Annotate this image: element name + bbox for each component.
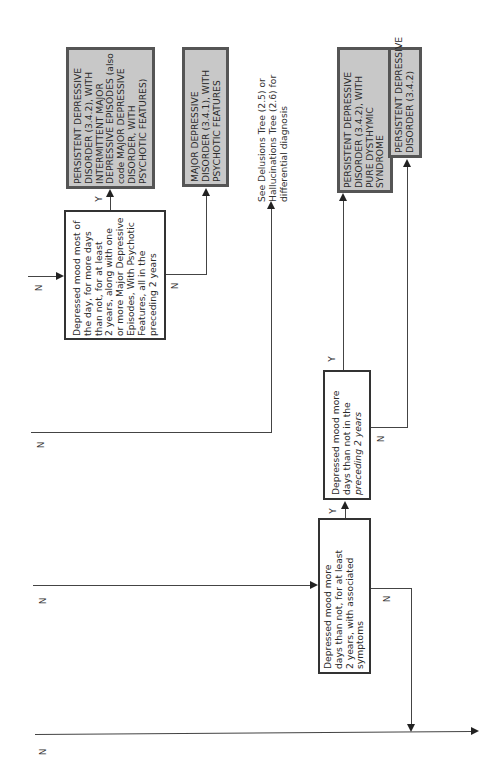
arrow-up-icon xyxy=(341,501,349,509)
arrow-up-icon xyxy=(106,189,114,197)
text-line: PERSISTENT DEPRESSIVE xyxy=(73,52,84,184)
text-line: DISORDER (3.4.1), WITH xyxy=(200,52,211,182)
connector-to-note-h xyxy=(31,432,271,433)
connector-d2-no-h xyxy=(371,427,408,428)
connector-d3-no-h xyxy=(371,588,411,589)
text-line: PSYCHOTIC FEATURES xyxy=(211,52,222,182)
decision-text: Depressed mood more days than not in the… xyxy=(331,375,363,495)
terminal-text: PERSISTENT DEPRESSIVE DISORDER (3.4.2), … xyxy=(73,52,149,184)
terminal-mdd-psychotic: MAJOR DEPRESSIVE DISORDER (3.4.1), WITH … xyxy=(182,47,229,187)
terminal-text: PERSISTENT DEPRESSIVE DISORDER (3.4.2), … xyxy=(343,52,386,188)
text-line: Features, all in the xyxy=(137,214,148,336)
label-no: N xyxy=(36,442,46,449)
label-no: N xyxy=(170,283,180,290)
label-no: N xyxy=(34,285,44,292)
text-line: SYNDROME xyxy=(376,52,387,188)
text-line: Hallucinations Tree (2.6) for xyxy=(268,72,279,202)
connector-to-note-v xyxy=(271,208,272,433)
terminal-text: MAJOR DEPRESSIVE DISORDER (3.4.1), WITH … xyxy=(189,52,221,182)
arrow-up-icon xyxy=(339,193,347,201)
terminal-pdd-pure-dysthymic: PERSISTENT DEPRESSIVE DISORDER (3.4.2), … xyxy=(337,47,393,193)
arrow-right-icon xyxy=(310,581,318,589)
terminal-pdd-intermittent-mde: PERSISTENT DEPRESSIVE DISORDER (3.4.2), … xyxy=(66,47,155,189)
text-line: days than not, for at least xyxy=(334,523,345,669)
decision-text: Depressed mood most of the day, for more… xyxy=(72,214,158,336)
connector-n-into-d1 xyxy=(28,276,56,277)
text-line: preceding 2 years xyxy=(147,214,158,336)
text-line: Depressed mood more xyxy=(323,523,334,669)
label-yes: Y xyxy=(328,508,338,514)
label-no: N xyxy=(382,596,392,603)
decision-mood-preceding-2-years: Depressed mood more days than not in the… xyxy=(323,370,371,500)
text-line: days than not in the xyxy=(342,375,353,495)
text-line: DEPRESSIVE EPISODES (also xyxy=(105,52,116,184)
connector-d1-yes xyxy=(110,196,111,210)
text-line: MAJOR DEPRESSIVE xyxy=(189,52,200,182)
arrow-right-icon xyxy=(56,272,64,280)
text-line: INTERMITTENT MAJOR xyxy=(94,52,105,184)
text-line: PSYCHOTIC FEATURES) xyxy=(137,52,148,184)
text-line: DISORDER (3.4.2) xyxy=(405,53,416,153)
label-no: N xyxy=(376,436,386,443)
decision-mood-2-years-associated: Depressed mood more days than not, for a… xyxy=(318,518,371,674)
connector-d3-no-v xyxy=(411,588,412,724)
note-text: See Delusions Tree (2.5) or Hallucinatio… xyxy=(257,72,289,202)
text-line: code MAJOR DEPRESSIVE xyxy=(116,52,127,184)
text-line: DISORDER, WITH xyxy=(127,52,138,184)
label-no: N xyxy=(38,598,48,605)
text-line: differential diagnosis xyxy=(278,72,289,202)
text-line: symptoms xyxy=(355,523,366,669)
decision-mood-with-mde-psychotic: Depressed mood most of the day, for more… xyxy=(64,210,166,340)
connector-d2-yes xyxy=(343,200,344,370)
arrow-right-icon xyxy=(471,727,479,735)
label-yes: Y xyxy=(327,356,337,362)
connector-bottom-no xyxy=(35,731,471,735)
label-yes: Y xyxy=(94,196,104,202)
text-line: DISORDER (3.4.2), WITH xyxy=(84,52,95,184)
terminal-text: PERSISTENT DEPRESSIVE DISORDER (3.4.2) xyxy=(394,53,416,153)
text-line: 2 years, with associated xyxy=(345,523,356,669)
text-line: the day, for more days xyxy=(83,214,94,336)
arrow-up-icon xyxy=(403,159,411,167)
connector-into-d3 xyxy=(33,585,310,586)
connector-d1-no-h xyxy=(166,274,207,275)
differential-note: See Delusions Tree (2.5) or Hallucinatio… xyxy=(253,72,293,202)
text-line: DISORDER (3.4.2), WITH xyxy=(354,52,365,188)
arrow-up-icon xyxy=(267,201,275,209)
text-line: preceding 2 years xyxy=(352,375,363,495)
decision-text: Depressed mood more days than not, for a… xyxy=(323,523,366,669)
terminal-pdd: PERSISTENT DEPRESSIVE DISORDER (3.4.2) xyxy=(388,47,422,158)
connector-d1-no-v xyxy=(206,195,207,275)
connector-d3-yes xyxy=(345,508,346,518)
connector-d2-no-v xyxy=(407,166,408,428)
arrow-up-icon xyxy=(202,188,210,196)
label-no: N xyxy=(38,749,48,756)
